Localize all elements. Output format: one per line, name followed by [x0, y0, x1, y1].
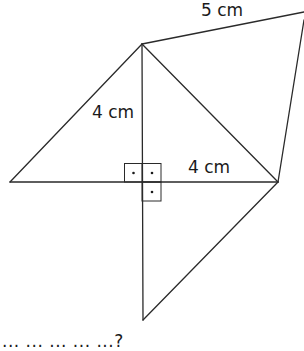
right-angle-dot-left [132, 172, 135, 175]
right-angle-dot-right [151, 172, 154, 175]
edge-lower-right [143, 182, 278, 320]
label-horizontal-four-cm: 4 cm [188, 159, 230, 176]
label-vertical-four-cm: 4 cm [92, 104, 134, 121]
cut-off-question-text: ... ... ... ... ...? [2, 333, 124, 350]
edge-right-outer [278, 20, 304, 182]
right-angle-dot-lower [151, 191, 154, 194]
label-five-cm: 5 cm [201, 2, 243, 19]
